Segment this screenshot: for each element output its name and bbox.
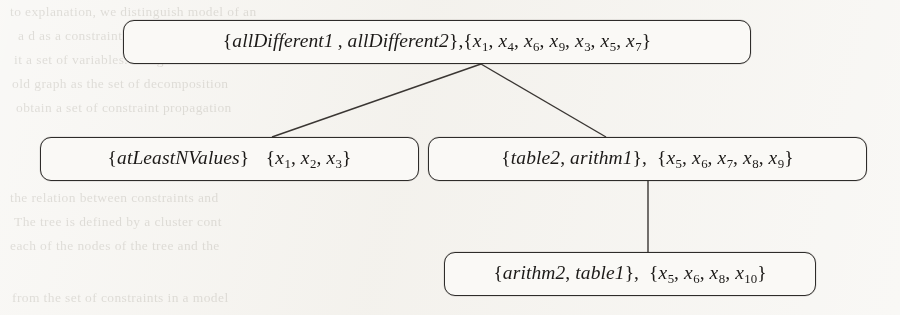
node-root-label: {allDifferent1 , allDifferent2},{x1, x4,… <box>223 29 651 54</box>
node-mid-label: {table2, arithm1}, {x5, x6, x7, x8, x9} <box>501 146 793 171</box>
edge-root-to-left <box>272 64 481 137</box>
node-mid[interactable]: {table2, arithm1}, {x5, x6, x7, x8, x9} <box>428 137 867 181</box>
node-bottom-label: {arithm2, table1}, {x5, x6, x8, x10} <box>493 261 766 286</box>
node-bottom[interactable]: {arithm2, table1}, {x5, x6, x8, x10} <box>444 252 816 296</box>
node-left[interactable]: {atLeastNValues}{x1, x2, x3} <box>40 137 419 181</box>
node-root[interactable]: {allDifferent1 , allDifferent2},{x1, x4,… <box>123 20 751 64</box>
node-left-label: {atLeastNValues}{x1, x2, x3} <box>108 146 352 171</box>
figure-canvas: to explanation, we distinguish model of … <box>0 0 900 315</box>
edge-root-to-mid <box>481 64 606 137</box>
